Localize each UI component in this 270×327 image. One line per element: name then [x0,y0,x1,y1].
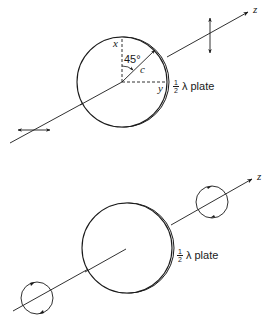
z-axis-label-bottom: z [257,171,261,182]
plate-text: λ plate [186,249,218,261]
z-axis-front-segment [167,12,248,57]
input-circle-arrow-bottom-icon [39,310,44,314]
half-fraction: 1 2 [173,79,179,94]
y-axis-label: y [158,83,163,94]
figure-top [10,12,248,143]
angle-label: 45° [124,54,141,65]
diagram-canvas [0,0,270,327]
z-axis-label-top: z [253,4,257,15]
optic-axis-c-label: c [140,64,145,75]
figure-bottom [13,179,252,314]
half-wave-plate [82,203,172,293]
x-axis-label: x [113,38,118,49]
plate-label-top: 1 2 λ plate [173,79,214,94]
plate-text: λ plate [182,80,214,92]
input-circle-arrow-top-icon [30,282,35,286]
half-fraction: 1 2 [177,248,183,263]
plate-label-bottom: 1 2 λ plate [177,248,218,263]
